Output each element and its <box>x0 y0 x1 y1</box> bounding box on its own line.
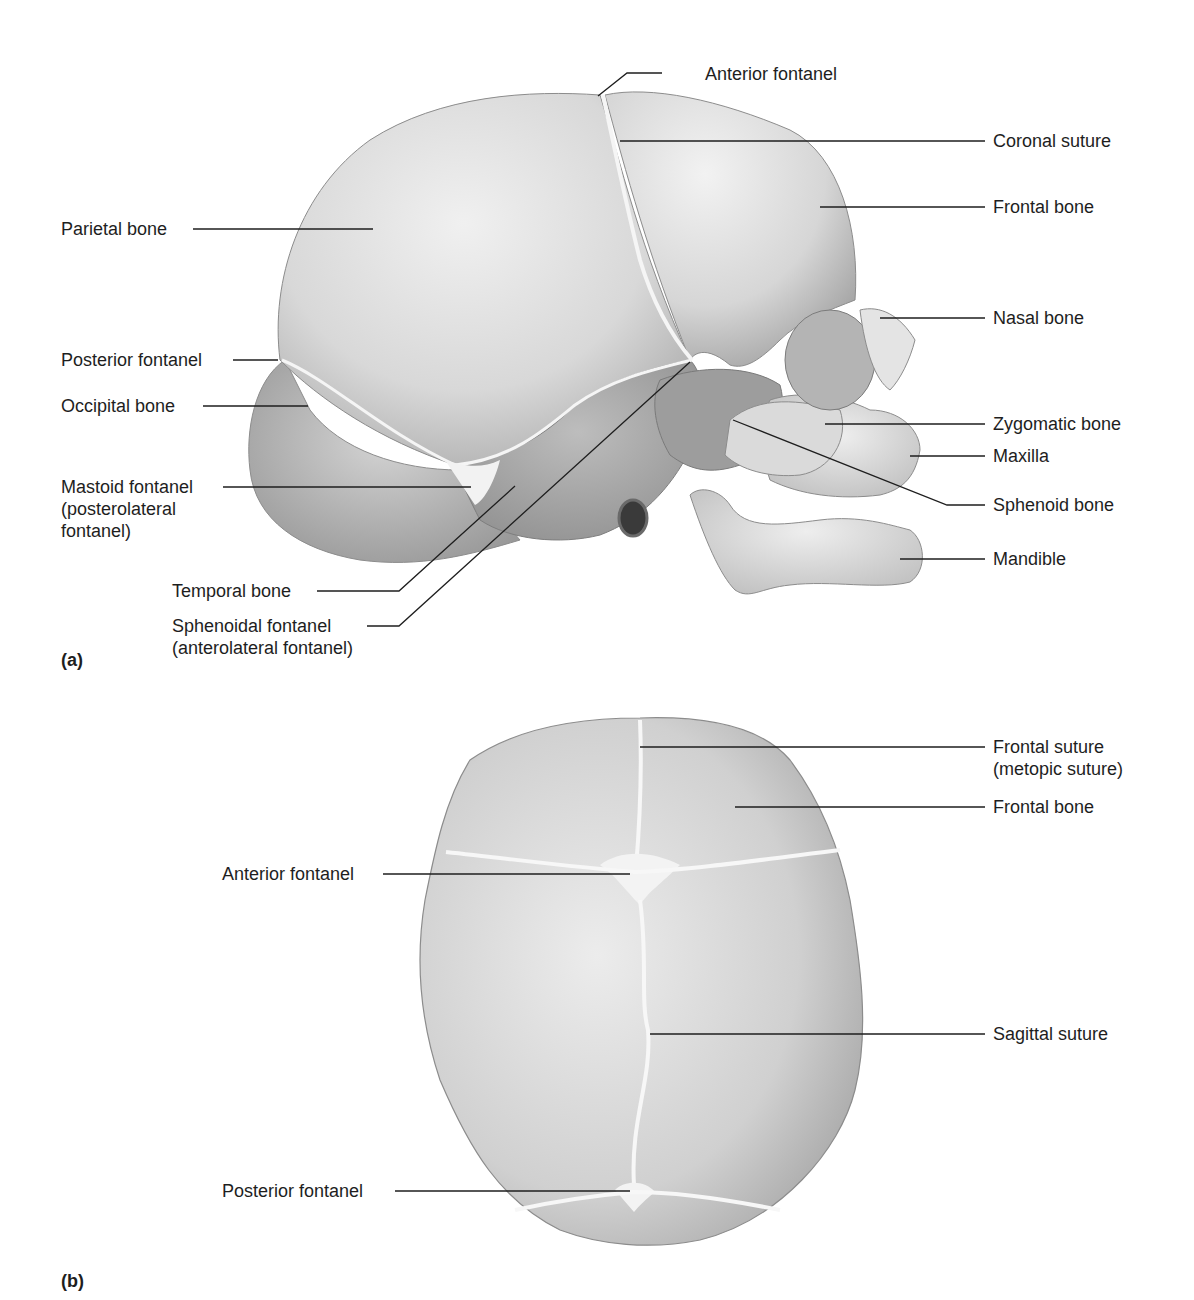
superior-skull <box>383 718 985 1245</box>
label-sphenoidal-fontanel: Sphenoidal fontanel (anterolateral fonta… <box>172 615 353 659</box>
label-frontal-suture: Frontal suture (metopic suture) <box>993 736 1123 780</box>
lateral-skull <box>193 73 985 626</box>
label-posterior-fontanel-top: Posterior fontanel <box>222 1180 363 1202</box>
label-mandible: Mandible <box>993 548 1066 570</box>
label-nasal-bone: Nasal bone <box>993 307 1084 329</box>
label-parietal-bone: Parietal bone <box>61 218 167 240</box>
label-maxilla: Maxilla <box>993 445 1049 467</box>
label-mastoid-fontanel: Mastoid fontanel (posterolateral fontane… <box>61 476 193 542</box>
mandible-shape <box>690 490 922 594</box>
orbit-shape <box>785 310 875 410</box>
panel-label-a: (a) <box>61 650 83 671</box>
label-coronal-suture: Coronal suture <box>993 130 1111 152</box>
label-sphenoid-bone: Sphenoid bone <box>993 494 1114 516</box>
label-frontal-bone-top: Frontal bone <box>993 796 1094 818</box>
label-anterior-fontanel-top: Anterior fontanel <box>222 863 354 885</box>
label-sagittal-suture: Sagittal suture <box>993 1023 1108 1045</box>
panel-label-b: (b) <box>61 1271 84 1292</box>
label-occipital-bone: Occipital bone <box>61 395 175 417</box>
label-posterior-fontanel: Posterior fontanel <box>61 349 202 371</box>
ear-canal-shape <box>619 500 647 536</box>
label-frontal-bone: Frontal bone <box>993 196 1094 218</box>
label-temporal-bone: Temporal bone <box>172 580 291 602</box>
label-zygomatic-bone: Zygomatic bone <box>993 413 1121 435</box>
label-anterior-fontanel: Anterior fontanel <box>705 63 837 85</box>
